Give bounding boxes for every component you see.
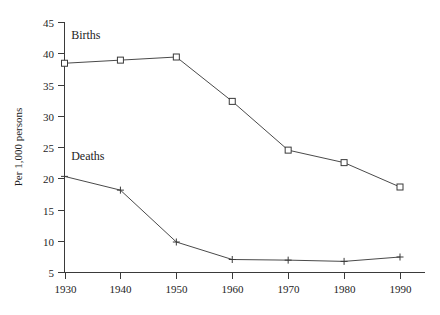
series-path bbox=[65, 57, 401, 187]
series-path bbox=[65, 176, 401, 261]
series-layer bbox=[61, 54, 404, 265]
series-label-births: Births bbox=[71, 28, 101, 42]
x-tick-label: 1970 bbox=[278, 283, 301, 295]
data-point bbox=[117, 57, 123, 63]
x-tick-label: 1950 bbox=[166, 283, 189, 295]
x-axis-ticks bbox=[66, 273, 401, 280]
y-tick-label: 40 bbox=[43, 48, 55, 60]
y-tick-label: 30 bbox=[43, 111, 55, 123]
x-axis-tick-labels: 1930194019501960197019801990 bbox=[55, 283, 413, 295]
series-deaths bbox=[61, 173, 404, 265]
y-tick-label: 25 bbox=[43, 142, 55, 154]
x-tick-label: 1940 bbox=[110, 283, 133, 295]
data-point bbox=[229, 98, 235, 104]
chart-container: 51015202530354045 Per 1,000 persons 1930… bbox=[0, 0, 440, 315]
x-tick-label: 1930 bbox=[55, 283, 78, 295]
y-axis-tick-labels: 51015202530354045 bbox=[43, 17, 55, 279]
x-tick-label: 1980 bbox=[334, 283, 357, 295]
x-axis: 1930194019501960197019801990 bbox=[55, 273, 426, 296]
x-tick-label: 1990 bbox=[390, 283, 413, 295]
y-tick-label: 20 bbox=[43, 173, 55, 185]
x-tick-label: 1960 bbox=[222, 283, 245, 295]
y-tick-label: 15 bbox=[43, 205, 55, 217]
y-tick-label: 45 bbox=[43, 17, 55, 29]
line-chart: 51015202530354045 Per 1,000 persons 1930… bbox=[0, 0, 440, 315]
data-point bbox=[397, 184, 403, 190]
y-axis: 51015202530354045 Per 1,000 persons bbox=[12, 17, 65, 279]
data-point bbox=[62, 60, 68, 66]
series-label-deaths: Deaths bbox=[71, 149, 105, 163]
series-births bbox=[62, 54, 404, 190]
y-tick-label: 5 bbox=[49, 267, 55, 279]
y-axis-title: Per 1,000 persons bbox=[12, 108, 24, 187]
y-tick-label: 35 bbox=[43, 80, 55, 92]
y-tick-label: 10 bbox=[43, 236, 55, 248]
series-annotations: BirthsDeaths bbox=[71, 28, 105, 163]
data-point bbox=[285, 147, 291, 153]
data-point bbox=[341, 160, 347, 166]
data-point bbox=[173, 54, 179, 60]
